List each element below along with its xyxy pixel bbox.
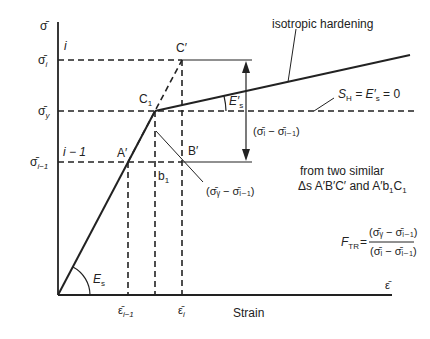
ftr-denominator: (σ̄ᵢ − σ̄ᵢ₋₁) xyxy=(370,245,417,257)
hardening-leader xyxy=(288,29,296,82)
es-prime-label: E′s xyxy=(229,94,243,110)
arrow-head-down xyxy=(242,149,250,161)
tick-eps-i: ε̄i xyxy=(178,304,185,319)
step-label-i-minus-1: i − 1 xyxy=(63,145,86,159)
x-axis-label: Strain xyxy=(233,306,264,320)
es-prime-angle-arc xyxy=(224,96,226,111)
y-axis-symbol: σ̄ xyxy=(40,19,49,33)
diff-y-label: (σ̄ᵧ − σ̄ᵢ₋₁) xyxy=(206,185,254,198)
tick-sigma-i: σ̄i xyxy=(38,53,47,69)
stress-strain-diagram: σ̄ i σ̄i σ̄y i − 1 σ̄i−1 ε̄i−1 ε̄i ε̄ St… xyxy=(0,0,430,339)
tick-sigma-im1: σ̄i−1 xyxy=(30,155,48,171)
point-b1: b1 xyxy=(158,169,170,185)
hardening-line xyxy=(155,55,410,111)
arrow-head-up xyxy=(242,61,250,73)
point-a-prime: A′ xyxy=(117,146,128,160)
ftr-equals: = xyxy=(360,235,367,249)
point-b-prime: B′ xyxy=(188,144,199,158)
ftr-numerator: (σ̄ᵧ − σ̄ᵢ₋₁) xyxy=(369,226,417,239)
es-label: Es xyxy=(93,272,105,288)
diff-i-label: (σ̄ᵢ − σ̄ᵢ₋₁) xyxy=(253,125,300,137)
elastic-line xyxy=(58,111,155,295)
similar-triangles-line2: Δs A′B′C′ and A′b1C1 xyxy=(298,179,407,195)
point-c1: C1 xyxy=(139,92,153,108)
tick-eps-im1: ε̄i−1 xyxy=(118,304,134,319)
step-label-i: i xyxy=(64,39,67,53)
point-c-prime: C′ xyxy=(176,41,188,55)
x-axis-symbol: ε̄ xyxy=(385,279,392,291)
sh-equation: SH = E′s = 0 xyxy=(338,87,400,103)
isotropic-hardening-label: isotropic hardening xyxy=(272,17,373,31)
es-angle-arc xyxy=(73,267,90,295)
similar-triangles-line1: from two similar xyxy=(300,164,384,178)
ftr-symbol: FTR xyxy=(341,235,359,251)
tick-sigma-y: σ̄y xyxy=(38,104,50,120)
sh-leader xyxy=(314,98,334,111)
